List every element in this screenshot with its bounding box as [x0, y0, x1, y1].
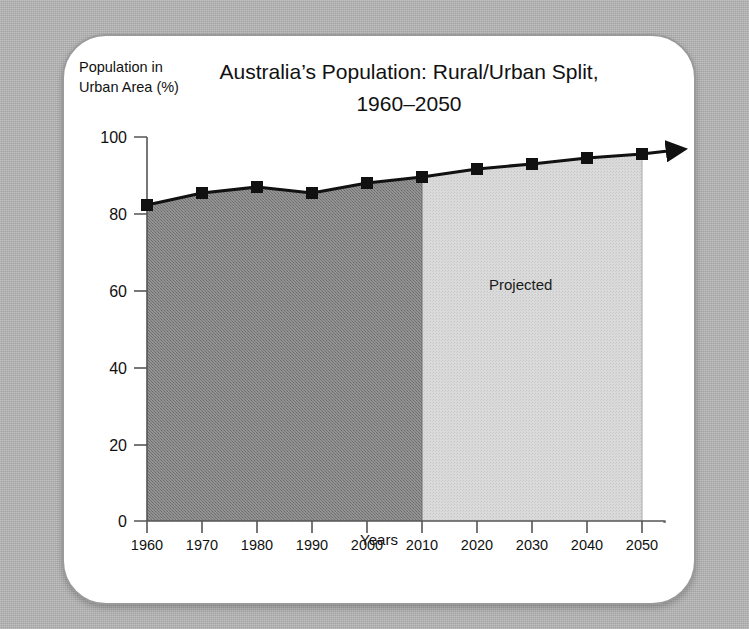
chart-area: Population in Urban Area (%) Australia’s… [64, 36, 694, 603]
data-point-marker [141, 199, 153, 211]
x-axis-title: Years [64, 531, 694, 548]
data-point-marker [251, 181, 263, 193]
y-tick-label-20: 20 [109, 437, 127, 454]
y-tick-label-60: 60 [109, 283, 127, 300]
area-projected [422, 154, 642, 521]
y-axis-tick-labels: 100 80 60 40 20 0 [100, 129, 127, 530]
data-point-marker [196, 187, 208, 199]
chart-plot: 100 80 60 40 20 0 1960 [64, 36, 694, 603]
area-historical [147, 177, 422, 521]
data-point-marker [526, 158, 538, 170]
data-point-marker [361, 177, 373, 189]
data-point-marker [471, 163, 483, 175]
data-point-marker [416, 171, 428, 183]
data-point-marker [636, 148, 648, 160]
corner-dot-mark [663, 520, 666, 523]
data-point-marker [306, 187, 318, 199]
chart-card: Population in Urban Area (%) Australia’s… [62, 34, 696, 605]
projected-annotation: Projected [489, 276, 552, 293]
y-tick-label-80: 80 [109, 206, 127, 223]
data-point-marker [581, 152, 593, 164]
y-tick-label-0: 0 [118, 513, 127, 530]
y-tick-label-100: 100 [100, 129, 127, 146]
y-tick-label-40: 40 [109, 360, 127, 377]
y-axis-ticks [134, 137, 147, 521]
